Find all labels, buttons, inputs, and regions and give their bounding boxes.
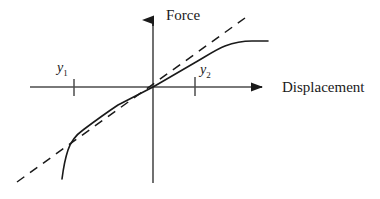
- tick-label-y2-subscript: 2: [206, 70, 211, 80]
- y-axis-label: Force: [166, 7, 200, 23]
- tick-label-y1: y1: [55, 60, 68, 78]
- tick-label-y1-subscript: 1: [63, 68, 68, 78]
- elastic-reference-line: [17, 18, 245, 182]
- x-axis-label: Displacement: [282, 79, 365, 95]
- backbone-curve: [62, 41, 268, 179]
- force-displacement-figure: Force Displacement y1 y2: [0, 0, 380, 199]
- figure-canvas: Force Displacement y1 y2: [0, 0, 380, 199]
- tick-label-y2: y2: [198, 62, 211, 80]
